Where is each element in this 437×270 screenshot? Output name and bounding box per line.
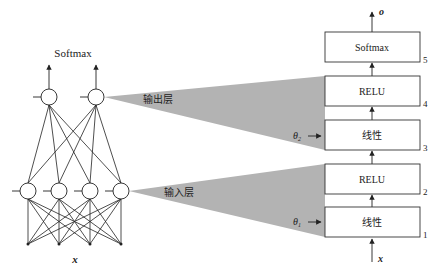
block-index: 2 (423, 187, 428, 197)
input-point (89, 243, 92, 246)
output-node (88, 89, 104, 105)
block-label: 线性 (362, 129, 382, 141)
network-input-label: x (71, 253, 78, 265)
input-point (27, 243, 30, 246)
input-point (120, 243, 123, 246)
hidden-node (82, 183, 98, 199)
hidden-nodes (12, 183, 129, 199)
block-5: Softmax 5 (325, 32, 428, 65)
block-4: RELU 4 (325, 76, 428, 109)
block-index: 1 (423, 230, 428, 240)
hidden-to-output-edges (28, 105, 121, 183)
output-layer-label: 输出层 (143, 93, 173, 105)
block-1: 线性 1 (325, 207, 428, 240)
output-nodes (33, 65, 104, 105)
block-index: 5 (423, 55, 428, 65)
input-points (27, 243, 123, 246)
input-to-hidden-edges (28, 199, 121, 244)
input-symbol: x (377, 253, 383, 264)
block-label: RELU (359, 174, 386, 185)
block-index: 3 (423, 143, 428, 153)
network-softmax-label: Softmax (54, 47, 92, 59)
input-point (58, 243, 61, 246)
output-node (41, 89, 57, 105)
input-layer-label: 输入层 (164, 186, 194, 198)
block-label: RELU (359, 86, 386, 97)
block-index: 4 (423, 99, 428, 109)
hidden-node (20, 183, 36, 199)
hidden-node (51, 183, 67, 199)
hidden-node (113, 183, 129, 199)
block-2: RELU 2 (325, 164, 428, 197)
block-label: 线性 (362, 216, 382, 228)
neural-network-diagram: Softmax x 输出层 输入层 o x θ2 θ1 Softmax 5 RE… (0, 0, 437, 270)
output-layer-wedge (104, 76, 325, 150)
block-3: 线性 3 (325, 120, 428, 153)
output-symbol: o (379, 6, 384, 17)
block-label: Softmax (355, 42, 389, 53)
